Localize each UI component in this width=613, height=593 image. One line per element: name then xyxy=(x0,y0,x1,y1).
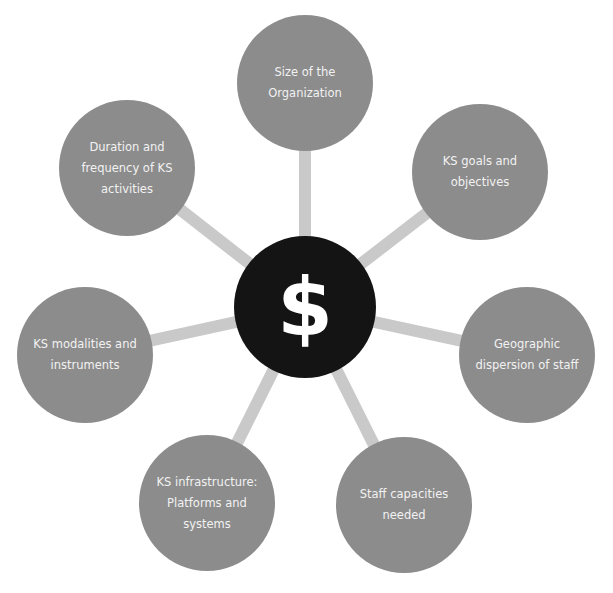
node-duration-frequency: Duration and frequency of KS activities xyxy=(59,100,195,236)
node-label: KS goals and objectives xyxy=(432,151,528,193)
hub-circle: $ xyxy=(234,236,376,378)
node-size-of-organization: Size of the Organization xyxy=(237,15,373,151)
node-label: Duration and frequency of KS activities xyxy=(72,137,182,200)
node-ks-modalities: KS modalities and instruments xyxy=(17,287,153,423)
node-ks-infrastructure: KS infrastructure: Platforms and systems xyxy=(139,435,275,571)
node-label: Geographic dispersion of staff xyxy=(469,334,585,376)
node-label: Size of the Organization xyxy=(257,62,353,104)
node-label: KS modalities and instruments xyxy=(27,334,143,376)
node-label: Staff capacities needed xyxy=(354,484,454,526)
dollar-sign-icon: $ xyxy=(277,261,333,354)
node-label: KS infrastructure: Platforms and systems xyxy=(151,472,263,535)
node-staff-capacities: Staff capacities needed xyxy=(336,437,472,573)
node-geographic-dispersion: Geographic dispersion of staff xyxy=(459,287,595,423)
node-ks-goals: KS goals and objectives xyxy=(412,104,548,240)
